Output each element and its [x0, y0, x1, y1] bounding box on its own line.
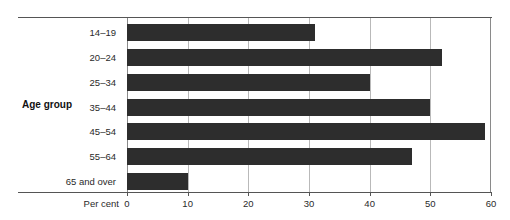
bar-row: [127, 24, 315, 41]
category-label: 65 and over: [66, 173, 116, 190]
x-tick: [309, 192, 310, 196]
category-label: 45–54: [90, 123, 116, 140]
x-tick: [370, 192, 371, 196]
x-tick-label: 60: [471, 198, 510, 209]
bar-row: [127, 49, 442, 66]
bar-chart-figure: Age group 14–1920–2425–3435–4445–5455–64…: [0, 0, 510, 220]
x-axis-line: [18, 192, 492, 193]
x-tick: [430, 192, 431, 196]
x-tick-label: 0: [107, 198, 147, 209]
bar-row: [127, 74, 370, 91]
category-label-group: 14–1920–2425–3435–4445–5455–6465 and ove…: [0, 18, 122, 192]
bar: [127, 24, 315, 41]
bar-group: [127, 18, 491, 192]
bar: [127, 123, 485, 140]
x-tick: [127, 192, 128, 196]
x-tick-label: 20: [228, 198, 268, 209]
x-tick: [248, 192, 249, 196]
bar-row: [127, 148, 412, 165]
x-tick-label: 30: [289, 198, 329, 209]
category-label: 55–64: [90, 148, 116, 165]
category-label: 20–24: [90, 49, 116, 66]
category-label: 35–44: [90, 99, 116, 116]
bar: [127, 49, 442, 66]
bar: [127, 173, 188, 190]
x-tick-label: 40: [350, 198, 390, 209]
x-tick-label: 10: [168, 198, 208, 209]
category-label: 14–19: [90, 24, 116, 41]
bar-row: [127, 173, 188, 190]
category-label: 25–34: [90, 74, 116, 91]
bar-row: [127, 123, 485, 140]
bar: [127, 148, 412, 165]
x-tick-label: 50: [410, 198, 450, 209]
bar-row: [127, 99, 430, 116]
bar: [127, 74, 370, 91]
x-tick: [188, 192, 189, 196]
bar: [127, 99, 430, 116]
x-tick: [491, 192, 492, 196]
plot-area: [127, 18, 491, 192]
